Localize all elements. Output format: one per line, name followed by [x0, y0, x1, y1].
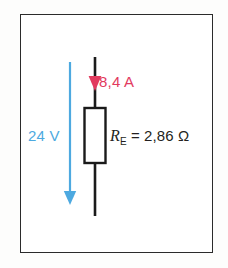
- voltage-arrowhead-icon: [64, 191, 76, 205]
- voltage-label: 24 V: [28, 128, 60, 143]
- resistance-label: RE = 2,86 Ω: [110, 128, 189, 147]
- resistance-symbol: R: [110, 127, 120, 144]
- resistor-body: [85, 108, 106, 163]
- current-label: 8,4 A: [99, 74, 134, 89]
- figure-container: 8,4 A 24 V RE = 2,86 Ω: [0, 0, 228, 268]
- resistance-subscript: E: [120, 136, 127, 147]
- resistance-equation: = 2,86 Ω: [127, 127, 190, 144]
